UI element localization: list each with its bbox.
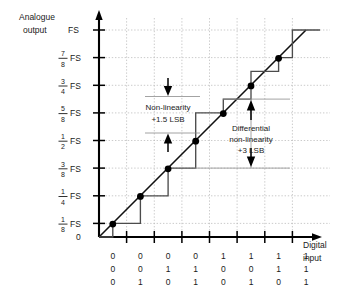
fraction-numerator: 1 [61, 133, 65, 140]
data-point [109, 221, 116, 228]
fraction-numerator: 3 [61, 78, 65, 85]
diff-non-linearity-label-line1: Differential [232, 124, 270, 133]
data-point [192, 138, 199, 145]
data-point [165, 165, 172, 172]
fraction-denominator: 2 [61, 143, 65, 150]
fraction-unit: FS [70, 136, 81, 146]
code-bit: 0 [276, 277, 281, 287]
y-tick-label-1-4-fs: 1 4 FS [59, 188, 82, 206]
code-bit: 1 [276, 264, 281, 274]
fraction-denominator: 8 [61, 116, 65, 123]
fraction-numerator: 1 [61, 188, 65, 195]
fraction-numerator: 7 [61, 50, 65, 57]
code-bit: 1 [304, 264, 309, 274]
code-bit: 0 [221, 277, 226, 287]
y-tick-label-fs: FS [68, 25, 79, 35]
fraction-unit: FS [70, 81, 81, 91]
data-point [275, 55, 282, 62]
y-tick-label-zero: 0 [76, 232, 81, 242]
code-bit: 0 [166, 251, 171, 261]
fraction-unit: FS [70, 164, 81, 174]
y-tick-label-1-2-fs: 1 2 FS [59, 133, 82, 151]
code-bit: 1 [193, 264, 198, 274]
x-axis-title-line2: input [303, 253, 322, 263]
code-bit: 0 [249, 264, 254, 274]
code-bit: 1 [304, 277, 309, 287]
non-linearity-label-line1: Non-linearity [146, 103, 191, 112]
code-bit: 1 [249, 277, 254, 287]
code-bit: 0 [138, 264, 143, 274]
code-bit: 1 [221, 251, 226, 261]
code-bit: 0 [166, 277, 171, 287]
fraction-denominator: 4 [61, 199, 65, 206]
diff-non-linearity-up-arrow-head [247, 100, 255, 111]
code-bit: 1 [166, 264, 171, 274]
fraction-denominator: 8 [61, 61, 65, 68]
fraction-unit: FS [70, 53, 81, 63]
code-bit: 1 [138, 277, 143, 287]
fraction-denominator: 8 [61, 171, 65, 178]
fraction-denominator: 8 [61, 226, 65, 233]
fraction-unit: FS [70, 191, 81, 201]
y-tick-label-7-8-fs: 7 8 FS [59, 50, 82, 68]
code-bit: 0 [138, 251, 143, 261]
diff-non-linearity-down-arrow-head [247, 157, 255, 168]
annotation-non-linearity: Non-linearity +1.5 LSB [145, 78, 200, 152]
non-linearity-label-line2: +1.5 LSB [151, 115, 184, 124]
y-axis-arrowhead [95, 10, 102, 20]
y-tick-label-3-8-fs: 3 8 FS [59, 161, 82, 179]
grid [99, 18, 330, 237]
fraction-unit: FS [70, 108, 81, 118]
fraction-numerator: 3 [61, 161, 65, 168]
diff-non-linearity-label-line3: +3 LSB [238, 146, 264, 155]
non-linearity-up-arrow-head [164, 134, 172, 144]
fraction-numerator: 5 [61, 105, 65, 112]
code-bit: 0 [193, 251, 198, 261]
y-axis-title-line1: Analogue [19, 12, 55, 22]
non-linearity-down-arrow-head [164, 86, 172, 96]
y-tick-labels: FS 7 8 FS 3 4 FS 5 8 FS 1 2 FS [59, 25, 82, 242]
y-tick-label-1-8-fs: 1 8 FS [59, 216, 82, 234]
fraction-denominator: 4 [61, 88, 65, 95]
data-point [220, 110, 227, 117]
y-tick-label-5-8-fs: 5 8 FS [59, 105, 82, 123]
code-bit: 1 [276, 251, 281, 261]
dac-transfer-characteristic-diagram: Analogue output FS 7 8 FS 3 4 FS 5 8 FS … [0, 0, 344, 288]
ideal-transfer-line [99, 30, 306, 237]
code-bit: 0 [110, 251, 115, 261]
code-bit: 0 [221, 264, 226, 274]
fraction-numerator: 1 [61, 216, 65, 223]
diff-non-linearity-label-line2: non-linearity [229, 135, 273, 144]
y-axis-title-line2: output [23, 25, 47, 35]
x-axis-title-line1: Digital [303, 240, 327, 250]
data-point [248, 83, 255, 90]
fraction-unit: FS [70, 219, 81, 229]
code-bit: 0 [110, 277, 115, 287]
code-bit: 1 [193, 277, 198, 287]
code-bit: 0 [110, 264, 115, 274]
y-tick-label-3-4-fs: 3 4 FS [59, 78, 82, 96]
code-bit: 1 [249, 251, 254, 261]
x-axis-binary-code-labels: 0 0 0 0 0 1 0 1 0 0 1 1 1 0 0 1 0 1 1 1 … [110, 251, 308, 287]
data-point [137, 193, 144, 200]
